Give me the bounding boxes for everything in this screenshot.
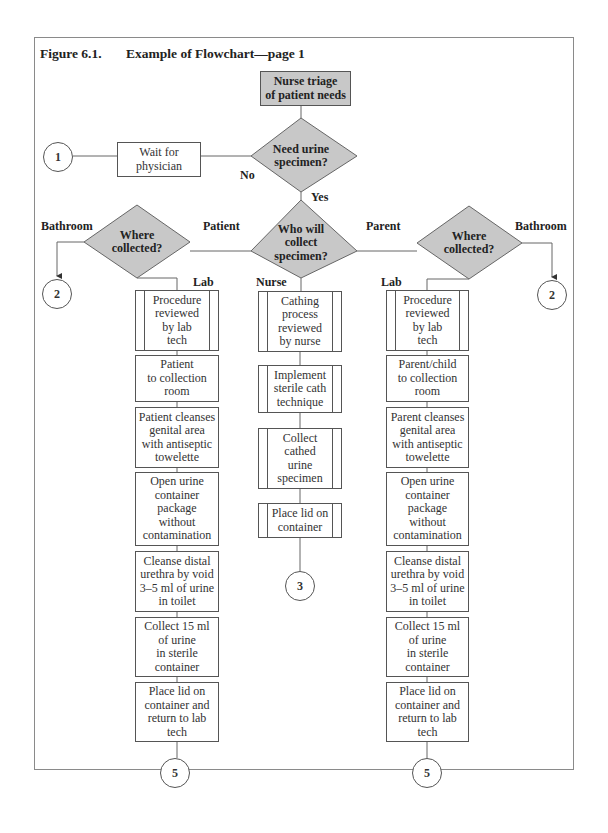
edge-label-patient: Patient xyxy=(203,219,240,234)
parent-step-5-text: Cleanse distal urethra by void 3–5 ml of… xyxy=(390,555,464,609)
edge-label-lab-right: Lab xyxy=(381,275,402,290)
parent-step-4: Open urine container package without con… xyxy=(386,472,469,546)
patient-step-5: Cleanse distal urethra by void 3–5 ml of… xyxy=(135,551,219,612)
patient-step-6-text: Collect 15 ml of urine in sterile contai… xyxy=(144,620,209,674)
start-box-nurse-triage: Nurse triage of patient needs xyxy=(260,71,351,106)
decision-who-collect-text: Who will collect specimen? xyxy=(256,218,346,268)
connector-1: 1 xyxy=(43,142,73,172)
edge-label-no: No xyxy=(240,168,255,183)
connector-2-left: 2 xyxy=(42,279,72,309)
parent-step-7-text: Place lid on container and return to lab… xyxy=(395,685,460,739)
nurse-step-3-text: Collect cathed urine specimen xyxy=(277,432,322,486)
decision-where-right-text: Where collected? xyxy=(424,225,514,261)
parent-step-1: Procedure reviewed by lab tech xyxy=(386,290,469,351)
parent-step-7: Place lid on container and return to lab… xyxy=(386,682,469,742)
parent-step-3: Parent cleanses genital area with antise… xyxy=(386,407,469,468)
edge-label-nurse: Nurse xyxy=(256,275,287,290)
connector-3: 3 xyxy=(285,571,315,601)
patient-step-4-text: Open urine container package without con… xyxy=(143,475,212,543)
decision-need-urine-text: Need urine specimen? xyxy=(256,138,346,174)
connector-2-right: 2 xyxy=(537,280,567,310)
parent-step-2-text: Parent/child to collection room xyxy=(398,358,458,399)
start-box-text: Nurse triage of patient needs xyxy=(265,75,346,102)
edge-label-bathroom-right: Bathroom xyxy=(515,219,567,234)
flowchart-lines xyxy=(0,0,608,833)
nurse-step-2-text: Implement sterile cath technique xyxy=(274,369,326,410)
nurse-step-1-text: Cathing process reviewed by nurse xyxy=(278,295,322,349)
wait-box-text: Wait for physician xyxy=(136,146,182,173)
patient-step-4: Open urine container package without con… xyxy=(135,472,219,546)
wait-for-physician-box: Wait for physician xyxy=(117,142,201,177)
patient-step-6: Collect 15 ml of urine in sterile contai… xyxy=(135,617,219,677)
parent-step-6-text: Collect 15 ml of urine in sterile contai… xyxy=(395,620,460,674)
nurse-step-4-text: Place lid on container xyxy=(272,507,329,534)
parent-step-3-text: Parent cleanses genital area with antise… xyxy=(391,411,465,465)
patient-step-5-text: Cleanse distal urethra by void 3–5 ml of… xyxy=(140,555,214,609)
edge-label-yes: Yes xyxy=(311,190,328,205)
patient-step-1: Procedure reviewed by lab tech xyxy=(135,290,219,351)
decision-where-left-text: Where collected? xyxy=(92,224,182,260)
edge-label-lab-left: Lab xyxy=(193,275,214,290)
parent-step-4-text: Open urine container package without con… xyxy=(393,475,462,543)
patient-step-2: Patient to collection room xyxy=(135,355,219,402)
parent-step-6: Collect 15 ml of urine in sterile contai… xyxy=(386,617,469,677)
patient-step-2-text: Patient to collection room xyxy=(147,358,207,399)
nurse-step-4: Place lid on container xyxy=(258,503,342,538)
parent-step-5: Cleanse distal urethra by void 3–5 ml of… xyxy=(386,551,469,612)
patient-step-3: Patient cleanses genital area with antis… xyxy=(135,407,219,468)
patient-step-7-text: Place lid on container and return to lab… xyxy=(145,685,210,739)
parent-step-2: Parent/child to collection room xyxy=(386,355,469,402)
parent-step-1-text: Procedure reviewed by lab tech xyxy=(403,294,452,348)
nurse-step-1: Cathing process reviewed by nurse xyxy=(258,291,342,352)
patient-step-7: Place lid on container and return to lab… xyxy=(135,682,219,742)
connector-5-right: 5 xyxy=(412,758,442,788)
patient-step-1-text: Procedure reviewed by lab tech xyxy=(153,294,202,348)
edge-label-parent: Parent xyxy=(366,219,400,234)
patient-step-3-text: Patient cleanses genital area with antis… xyxy=(139,411,215,465)
connector-5-left: 5 xyxy=(160,758,190,788)
nurse-step-2: Implement sterile cath technique xyxy=(258,365,342,413)
edge-label-bathroom-left: Bathroom xyxy=(41,219,93,234)
nurse-step-3: Collect cathed urine specimen xyxy=(258,428,342,489)
